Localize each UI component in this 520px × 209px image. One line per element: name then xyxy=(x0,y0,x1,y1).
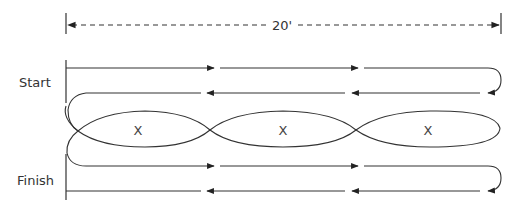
marker-x-3: X xyxy=(424,123,433,138)
row1-uturn xyxy=(364,68,501,93)
row3-uturn xyxy=(364,166,501,191)
start-label: Start xyxy=(19,75,51,90)
marker-x-2: X xyxy=(279,123,288,138)
finish-label: Finish xyxy=(17,173,54,188)
dimension-label: 20' xyxy=(272,18,292,33)
course-diagram: 20' Start X X X Finish xyxy=(0,0,520,209)
marker-x-1: X xyxy=(134,123,143,138)
figure8-to-row3-curve xyxy=(67,131,86,166)
